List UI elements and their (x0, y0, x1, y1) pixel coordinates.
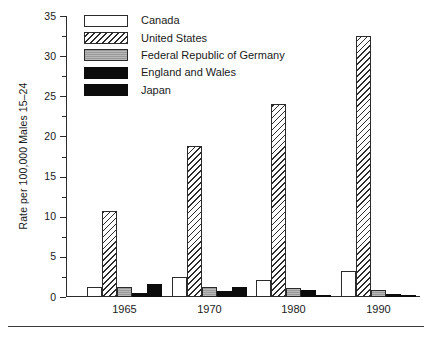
bar-japan-1970 (232, 287, 247, 297)
bar-japan-1965 (147, 284, 162, 297)
bar-chart: Rate per 100,000 Males 15–24 05101520253… (0, 0, 432, 337)
bar-england-and-wales-1965 (132, 293, 147, 297)
bar-united-states-1980 (271, 104, 286, 297)
y-tick-major (60, 297, 66, 298)
y-tick-label: 15 (30, 171, 56, 181)
y-tick-label: 35 (30, 11, 56, 21)
y-tick-label: 0 (30, 292, 56, 302)
bar-group-1990 (341, 16, 416, 297)
y-tick-label: 10 (30, 211, 56, 221)
x-axis-label-1980: 1980 (254, 303, 334, 315)
legend-item-canada[interactable]: Canada (84, 12, 285, 29)
x-axis-label-1965: 1965 (85, 303, 165, 315)
y-axis-title: Rate per 100,000 Males 15–24 (17, 41, 29, 271)
bar-canada-1980 (256, 280, 271, 297)
y-tick-label: 5 (30, 251, 56, 261)
bar-united-states-1970 (187, 146, 202, 297)
bar-federal-republic-of-germany-1965 (117, 287, 132, 297)
bar-united-states-1990 (356, 36, 371, 297)
legend-swatch-federal-republic-of-germany-icon (84, 49, 128, 61)
y-tick-label: 25 (30, 91, 56, 101)
bar-england-and-wales-1970 (217, 291, 232, 297)
y-tick-label: 20 (30, 131, 56, 141)
bar-federal-republic-of-germany-1990 (371, 290, 386, 297)
legend-label-canada: Canada (141, 15, 180, 26)
bar-federal-republic-of-germany-1980 (286, 288, 301, 297)
legend-label-japan: Japan (141, 85, 171, 96)
bar-federal-republic-of-germany-1970 (202, 287, 217, 297)
bar-england-and-wales-1990 (386, 294, 401, 297)
bottom-divider (8, 326, 424, 327)
legend-swatch-japan-icon (84, 84, 128, 96)
bar-canada-1970 (172, 277, 187, 297)
y-tick-label: 30 (30, 51, 56, 61)
legend-item-england-and-wales[interactable]: England and Wales (84, 64, 285, 81)
legend-item-japan[interactable]: Japan (84, 82, 285, 99)
legend-item-united-states[interactable]: United States (84, 29, 285, 46)
legend-item-federal-republic-of-germany[interactable]: Federal Republic of Germany (84, 47, 285, 64)
legend-swatch-united-states-icon (84, 32, 128, 44)
bar-england-and-wales-1980 (301, 290, 316, 297)
legend-swatch-england-and-wales-icon (84, 67, 128, 79)
x-axis-label-1990: 1990 (339, 303, 419, 315)
bar-canada-1990 (341, 271, 356, 297)
legend-swatch-canada-icon (84, 15, 128, 27)
bar-japan-1990 (401, 295, 416, 297)
legend-label-united-states: United States (141, 33, 207, 44)
bar-united-states-1965 (102, 211, 117, 297)
legend-label-england-and-wales: England and Wales (141, 67, 236, 78)
legend-label-federal-republic-of-germany: Federal Republic of Germany (141, 50, 285, 61)
x-axis-label-1970: 1970 (170, 303, 250, 315)
bar-canada-1965 (87, 287, 102, 297)
bar-japan-1980 (316, 295, 331, 297)
chart-legend: CanadaUnited StatesFederal Republic of G… (84, 12, 285, 99)
